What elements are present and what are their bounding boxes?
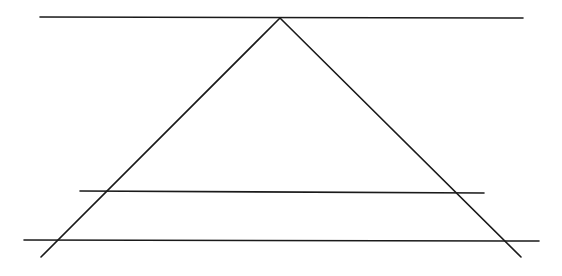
top-horizontal-line — [40, 17, 523, 18]
diagram-background — [0, 0, 562, 276]
geometry-diagram — [0, 0, 562, 276]
bottom-horizontal-line — [24, 240, 539, 241]
